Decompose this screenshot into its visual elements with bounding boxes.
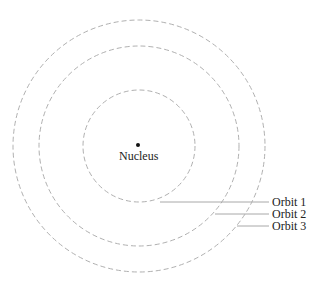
orbit-3-label: Orbit 3 (272, 220, 306, 232)
nucleus-dot (136, 143, 140, 147)
atom-diagram (0, 0, 322, 290)
nucleus-label: Nucleus (119, 150, 158, 162)
